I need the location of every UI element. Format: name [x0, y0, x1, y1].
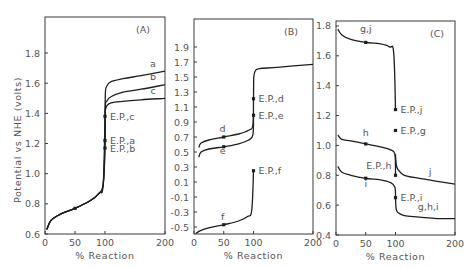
x-tick-label: 200: [156, 237, 174, 248]
y-tick-label: -0.1: [170, 192, 189, 203]
data-marker: [252, 114, 255, 117]
curve-a: [47, 71, 165, 229]
x-axis-label: % Reaction: [366, 251, 425, 262]
curve-label: f: [221, 211, 225, 222]
curve-label: d: [220, 123, 226, 134]
curve-label: a: [150, 58, 156, 69]
y-tick-label: 0.3: [174, 162, 189, 173]
x-tick-label: 0: [191, 237, 197, 248]
curve-label: c: [150, 85, 155, 96]
y-tick-label: 1.5: [174, 72, 189, 83]
x-tick-label: 100: [244, 237, 262, 248]
curve-d: [199, 64, 313, 147]
x-tick-label: 50: [218, 237, 230, 248]
curve-label: g,h,i: [418, 201, 439, 212]
data-marker: [364, 41, 367, 44]
curve-label: i: [364, 178, 367, 189]
y-axis-label: Potential vs NHE (volts): [12, 77, 23, 203]
x-tick-label: 100: [96, 237, 114, 248]
y-tick-label: 0.6: [316, 200, 331, 211]
y-tick-label: -0.3: [170, 207, 189, 218]
y-tick-label: 1.9: [174, 42, 189, 53]
data-marker: [103, 146, 106, 149]
data-marker: [364, 142, 367, 145]
x-tick-label: 100: [386, 238, 404, 249]
curve-label: j: [428, 166, 432, 177]
data-marker: [222, 223, 225, 226]
curve-label: b: [150, 71, 156, 82]
y-tick-label: 1.2: [316, 110, 331, 121]
y-tick-label: 1.2: [25, 138, 40, 149]
y-tick-label: 0.7: [174, 132, 189, 143]
y-tick-label: 0.9: [174, 117, 189, 128]
data-marker: [73, 207, 76, 210]
equivalence-point-label: E.P.,d: [259, 93, 284, 104]
y-tick-label: 1.6: [25, 78, 40, 89]
y-tick-label: 1.0: [316, 140, 331, 151]
equivalence-point-label: E.P.,e: [259, 110, 284, 121]
panel-label: (C): [430, 28, 444, 39]
curve-j: [396, 154, 456, 184]
equivalence-point-label: E.P.,f: [259, 165, 282, 176]
data-marker: [222, 135, 225, 138]
y-tick-label: 0.8: [316, 170, 331, 181]
curve-label: e: [220, 145, 226, 156]
y-tick-label: 0.8: [25, 198, 40, 209]
x-axis-label: % Reaction: [75, 250, 134, 261]
y-tick-label: 1.3: [174, 87, 189, 98]
curve-label: g,j: [360, 23, 372, 34]
x-tick-label: 0: [42, 237, 48, 248]
data-marker: [103, 139, 106, 142]
y-tick-label: 1.1: [174, 102, 189, 113]
curve-label: h: [363, 127, 369, 138]
y-tick-label: 1.4: [25, 108, 40, 119]
panel-a: (A)0.60.81.01.21.41.61.8050100200% React…: [25, 17, 174, 261]
data-marker: [394, 129, 397, 132]
x-tick-label: 0: [333, 238, 339, 249]
data-marker: [252, 97, 255, 100]
equivalence-point-label: E.P.,h: [366, 160, 391, 171]
y-tick-label: 0.4: [316, 230, 331, 241]
equivalence-point-label: E.P.,j: [401, 104, 423, 115]
titration-curves-figure: Potential vs NHE (volts) (A)0.60.81.01.2…: [0, 0, 471, 267]
x-tick-label: 50: [360, 238, 372, 249]
equivalence-point-label: E.P.,b: [110, 143, 135, 154]
panel-b: (B)-0.5-0.3-0.10.10.30.50.70.91.11.31.51…: [170, 19, 322, 261]
curve-c: [47, 98, 165, 229]
y-tick-label: 1.6: [316, 50, 331, 61]
data-marker: [394, 108, 397, 111]
y-tick-label: 1.0: [25, 168, 40, 179]
y-tick-label: 0.6: [25, 229, 40, 240]
y-tick-label: 1.4: [316, 80, 331, 91]
y-tick-label: 1.8: [25, 48, 40, 59]
data-marker: [252, 169, 255, 172]
data-marker: [394, 196, 397, 199]
equivalence-point-label: E.P.,c: [110, 111, 135, 122]
y-tick-label: 0.5: [174, 147, 189, 158]
panel-label: (B): [284, 26, 298, 37]
x-tick-label: 200: [446, 238, 464, 249]
x-axis-label: % Reaction: [224, 250, 283, 261]
x-tick-label: 50: [69, 237, 81, 248]
y-tick-label: 0.1: [174, 177, 189, 188]
y-tick-label: -0.5: [170, 222, 189, 233]
equivalence-point-label: E.P.,g: [401, 125, 426, 136]
panel-c: (C)0.40.60.81.01.21.41.61.8050100200% Re…: [316, 20, 464, 262]
y-tick-label: 1.8: [316, 20, 331, 31]
panel-label: (A): [136, 24, 150, 35]
y-tick-label: 1.7: [174, 57, 189, 68]
data-marker: [103, 115, 106, 118]
data-marker: [394, 174, 397, 177]
